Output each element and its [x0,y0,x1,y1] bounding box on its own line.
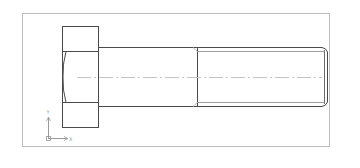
viewport-frame [23,14,330,147]
thread-chamfer-bottom [193,103,198,107]
ucs-x-label: X [69,136,73,142]
drawing-canvas[interactable]: Y X [0,0,360,168]
bolt-drawing [63,27,328,128]
ucs-icon: Y X [46,109,74,142]
ucs-y-label: Y [46,109,51,115]
head-chamfer-arc [63,52,66,103]
thread-chamfer-top [193,48,198,52]
